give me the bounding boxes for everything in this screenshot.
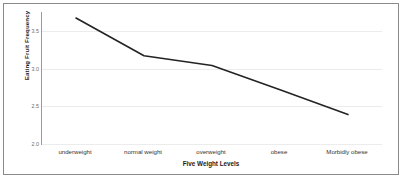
y-axis-tick-label: 2.0: [32, 141, 40, 147]
figure-border: Eating Fruit Frequency 3.53.02.52.0 unde…: [3, 3, 399, 175]
y-axis-tick-label: 2.5: [32, 103, 40, 109]
gridline: [42, 144, 382, 145]
line-chart: Eating Fruit Frequency 3.53.02.52.0 unde…: [4, 4, 398, 174]
data-line-svg: [42, 12, 382, 144]
series-line-eating-fruit-frequency: [76, 18, 348, 115]
x-axis-tick-labels: underweightnormal weightoverweightobeseM…: [41, 148, 381, 160]
y-axis-tick-label: 3.0: [32, 66, 40, 72]
x-axis-tick-label: normal weight: [124, 148, 162, 155]
plot-area: 3.53.02.52.0: [41, 12, 382, 145]
y-axis-tick-label: 3.5: [32, 28, 40, 34]
x-axis-tick-label: underweight: [58, 148, 91, 155]
y-axis-title: Eating Fruit Frequency: [23, 0, 30, 101]
x-axis-title: Five Weight Levels: [41, 160, 381, 167]
x-axis-tick-label: Morbidly obese: [326, 148, 367, 155]
x-axis-tick-label: obese: [271, 148, 288, 155]
x-axis-tick-label: overweight: [196, 148, 225, 155]
